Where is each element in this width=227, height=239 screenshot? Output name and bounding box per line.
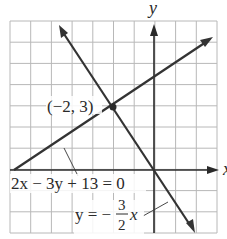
line2-leader <box>143 202 168 216</box>
point-label: (−2, 3) <box>47 97 93 116</box>
y-axis-arrow-icon <box>150 24 158 36</box>
x-axis-label: x <box>222 159 227 179</box>
y-axis-label: y <box>147 0 157 18</box>
line2-fraction-numerator: 3 <box>118 197 126 213</box>
line2-fraction-denominator: 2 <box>118 217 126 233</box>
line2-variable: x <box>129 205 138 224</box>
graph: (−2, 3) y x 2x − 3y + 13 = 0 y = − 3 2 x <box>0 0 227 239</box>
intersection-point <box>110 104 117 111</box>
line1-leader <box>64 148 78 176</box>
line2-equation-lhs: y = − <box>75 205 111 224</box>
line1-equation-label: 2x − 3y + 13 = 0 <box>11 174 125 193</box>
